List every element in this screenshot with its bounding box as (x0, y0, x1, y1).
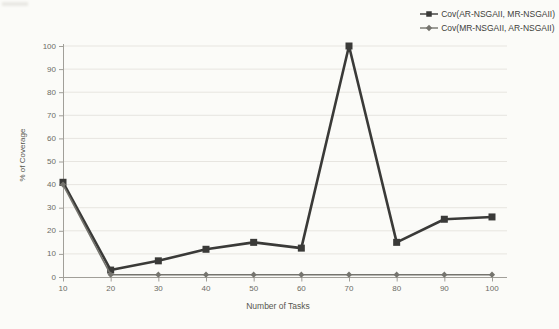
data-point-marker (394, 272, 400, 278)
series-line-0 (63, 46, 492, 270)
y-tick-label: 40 (47, 180, 56, 189)
plot-area: 0102030405060708090100102030405060708090… (0, 0, 559, 329)
x-tick-label: 100 (485, 284, 499, 293)
data-point-marker (346, 272, 352, 278)
data-point-marker (489, 213, 496, 220)
x-tick-label: 30 (154, 284, 163, 293)
x-tick-label: 80 (392, 284, 401, 293)
data-point-marker (393, 239, 400, 246)
y-tick-label: 50 (47, 157, 56, 166)
data-point-marker (489, 272, 495, 278)
data-point-marker (203, 272, 209, 278)
y-tick-label: 80 (47, 88, 56, 97)
y-tick-label: 70 (47, 111, 56, 120)
y-tick-label: 100 (43, 42, 57, 51)
data-point-marker (203, 246, 210, 253)
y-tick-label: 10 (47, 249, 56, 258)
y-tick-label: 20 (47, 226, 56, 235)
data-point-marker (155, 272, 161, 278)
series-line-1 (63, 185, 492, 275)
data-point-marker (251, 272, 257, 278)
data-point-marker (250, 239, 257, 246)
x-tick-label: 10 (59, 284, 68, 293)
coverage-line-chart: Cov(AR-NSGAII, MR-NSGAII) Cov(MR-NSGAII,… (0, 0, 559, 329)
data-point-marker (298, 272, 304, 278)
y-tick-label: 0 (52, 273, 57, 282)
y-tick-label: 90 (47, 65, 56, 74)
data-point-marker (441, 216, 448, 223)
x-tick-label: 40 (202, 284, 211, 293)
y-tick-label: 30 (47, 203, 56, 212)
data-point-marker (298, 245, 305, 252)
data-point-marker (441, 272, 447, 278)
x-tick-label: 60 (297, 284, 306, 293)
data-point-marker (155, 257, 162, 264)
x-tick-label: 70 (345, 284, 354, 293)
y-tick-label: 60 (47, 134, 56, 143)
data-point-marker (346, 43, 353, 50)
x-tick-label: 50 (249, 284, 258, 293)
x-tick-label: 90 (440, 284, 449, 293)
x-tick-label: 20 (106, 284, 115, 293)
